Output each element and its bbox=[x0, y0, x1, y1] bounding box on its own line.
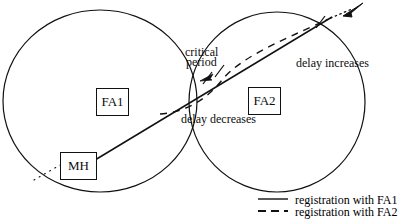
mobility-handoff-diagram: FA1 FA2 MH critical period delay increas… bbox=[0, 0, 402, 221]
fa1-node-label: FA1 bbox=[101, 94, 123, 110]
trajectory-solid-line bbox=[95, 17, 332, 160]
fa2-node-box: FA2 bbox=[248, 87, 281, 115]
fa1-node-box: FA1 bbox=[96, 88, 129, 116]
trajectory-arrowhead bbox=[343, 3, 363, 17]
delay-decreases-annotation: delay decreases bbox=[181, 113, 256, 125]
fa2-node-label: FA2 bbox=[253, 93, 275, 109]
delay-increases-annotation: delay increases bbox=[296, 57, 369, 69]
legend-label-fa2: registration with FA2 bbox=[295, 205, 397, 220]
mh-node-box: MH bbox=[60, 152, 97, 180]
critical-period-annotation-line2: period bbox=[186, 56, 217, 68]
mh-node-label: MH bbox=[68, 158, 89, 174]
diagram-canvas bbox=[0, 0, 402, 221]
